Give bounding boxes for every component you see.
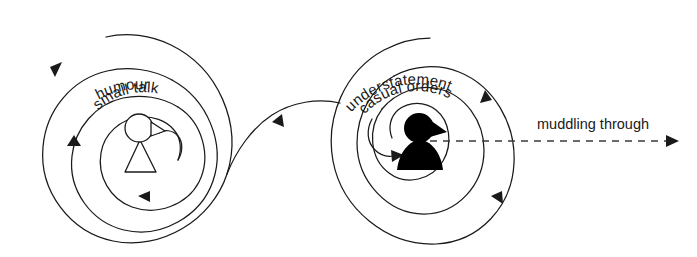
s-connector — [227, 101, 340, 174]
right-figure-body — [397, 140, 443, 170]
right-figure-person-filled-icon — [397, 113, 447, 170]
left-figure-beak — [151, 122, 165, 136]
axis-arrow-right-icon — [666, 135, 679, 147]
diagram-root: humour small talk — [0, 0, 697, 257]
right-spiral-arrowhead-outer — [491, 191, 503, 204]
diagram-canvas: humour small talk — [0, 0, 697, 257]
left-spiral-arrowhead-middle — [67, 135, 81, 146]
left-inner-hook — [159, 131, 182, 160]
left-figure-body — [125, 140, 156, 172]
left-figure-person-outline-icon — [125, 114, 165, 172]
muddling-through-axis: muddling through — [430, 116, 679, 147]
left-spiral-arrowhead-inner — [138, 191, 150, 202]
right-figure-beak — [430, 120, 447, 137]
left-spiral-arrowhead-outer — [50, 62, 62, 77]
left-spiral-label-middle: small talk — [89, 78, 160, 112]
right-figure-head — [404, 113, 434, 143]
right-spiral-arrowhead-middle — [480, 90, 492, 103]
left-spiral-group: humour small talk — [43, 35, 232, 243]
axis-label: muddling through — [537, 116, 649, 132]
s-connector-arrowhead — [272, 114, 284, 127]
left-figure-head — [125, 114, 153, 142]
